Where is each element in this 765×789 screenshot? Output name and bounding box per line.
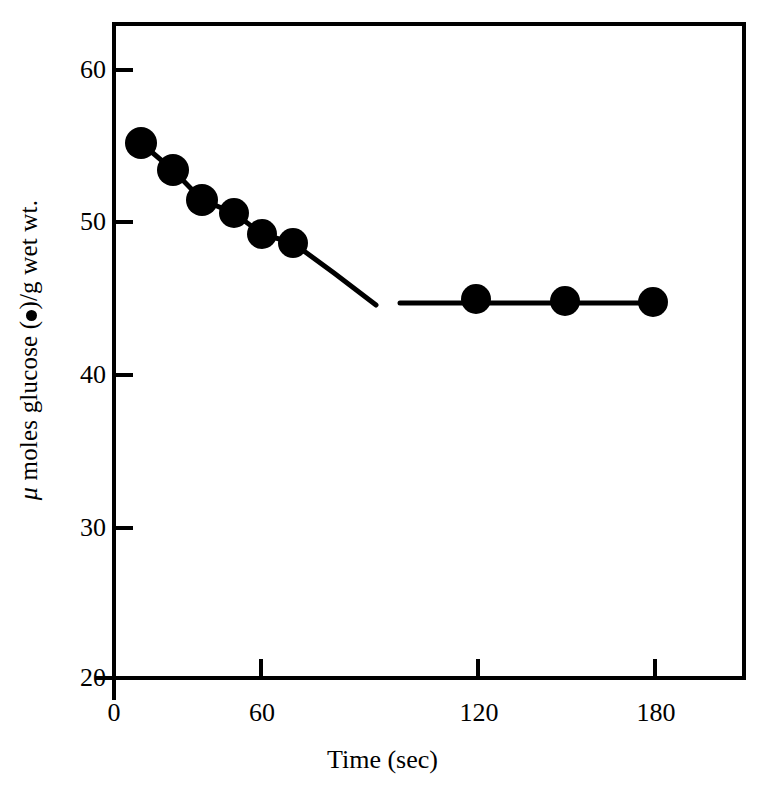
x-axis-title: Time (sec) bbox=[0, 745, 765, 775]
chart-figure: μ moles glucose ()/g wet wt. 60 50 40 30… bbox=[0, 0, 765, 789]
data-point-6 bbox=[278, 228, 308, 258]
data-point-2 bbox=[157, 154, 189, 186]
axis-frame bbox=[114, 24, 744, 678]
data-point-9 bbox=[638, 287, 668, 317]
x-axis-ticks bbox=[261, 659, 655, 678]
data-point-1 bbox=[125, 127, 157, 159]
data-point-markers bbox=[125, 127, 668, 317]
data-point-5 bbox=[247, 219, 277, 249]
plot-area bbox=[0, 0, 765, 789]
data-point-8 bbox=[550, 286, 580, 316]
data-point-7 bbox=[461, 284, 491, 314]
data-point-3 bbox=[186, 184, 218, 216]
data-point-4 bbox=[219, 198, 249, 228]
